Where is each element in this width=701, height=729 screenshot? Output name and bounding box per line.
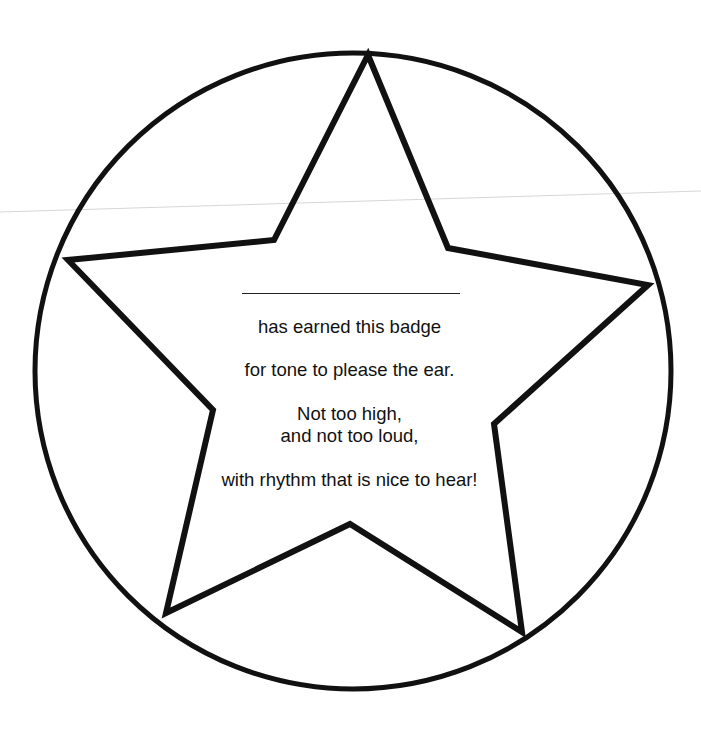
badge-text-line-5: with rhythm that is nice to hear!	[0, 469, 700, 491]
badge-text-line-2: for tone to please the ear.	[0, 359, 700, 381]
badge-text-line-1: has earned this badge	[0, 316, 700, 338]
badge-page: has earned this badge for tone to please…	[0, 0, 701, 729]
badge-text-line-3: Not too high,	[0, 403, 700, 425]
star-outline	[68, 55, 648, 632]
name-blank-line[interactable]	[242, 293, 460, 294]
paper-fold-line	[0, 191, 701, 212]
badge-text-line-4: and not too loud,	[0, 425, 700, 447]
